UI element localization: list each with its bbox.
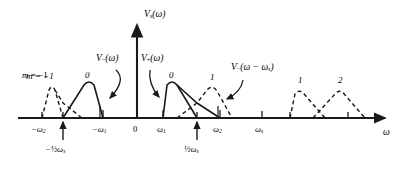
curve-label-baseband-positive: 0 (169, 71, 174, 80)
replica-m-1-dashed-right (290, 91, 325, 118)
baseband-negative-solid (63, 82, 103, 118)
curve-label-baseband-negative: 0 (85, 71, 90, 80)
callout-arrow-v-minus-omega (110, 70, 120, 98)
horizontal-axis-label: ω (383, 128, 390, 138)
callout-arrow-v-plus-omega (150, 70, 159, 97)
axis-label-omega1: ω1 (157, 125, 166, 135)
half-sampling-arrows (63, 122, 197, 140)
callout-arrow-v-minus-omega-minus-omegas (227, 80, 243, 99)
curve-label-replica-1-right: 1 (298, 76, 303, 85)
curve-label-replica-1-center: 1 (210, 73, 215, 82)
callout-label-v-plus-omega: V+(ω) (141, 54, 163, 64)
spectrum-figure: Vs(ω) ω m = −1 0 0 1 1 2 V−(ω) V+(ω) V−(… (0, 0, 403, 172)
callout-label-v-minus-omega: V−(ω) (96, 54, 118, 64)
annotation-m-index: m = −1 (22, 71, 48, 80)
curve-label-replica-2-right: 2 (338, 76, 343, 85)
axis-label-omega2: ω2 (213, 125, 222, 135)
vertical-axis-label: Vs(ω) (144, 10, 165, 20)
axis-label-neg-half-omegas: −½ωs (45, 145, 65, 155)
axis-label-origin: 0 (133, 125, 137, 134)
axis-label-neg-omega1: −ω1 (92, 125, 107, 135)
replica-m-2-dashed-right (313, 91, 365, 118)
axis-label-neg-omega2: −ω2 (31, 125, 46, 135)
axis-label-omegas: ωs (255, 125, 263, 135)
axis-label-half-omegas: ½ωs (184, 145, 199, 155)
callout-label-v-minus-omega-minus-omegas: V−(ω − ωs) (231, 63, 274, 73)
